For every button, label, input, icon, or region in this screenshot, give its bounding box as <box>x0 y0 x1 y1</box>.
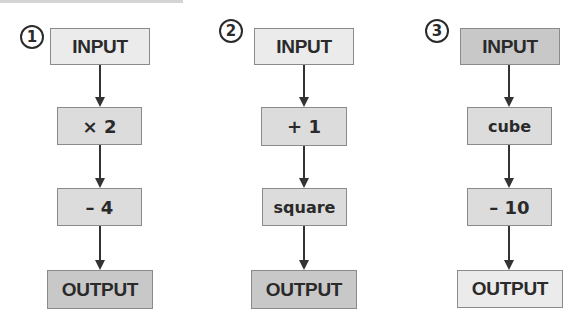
input-box: INPUT <box>50 28 150 65</box>
output-box: OUTPUT <box>457 270 563 308</box>
input-box: INPUT <box>460 28 560 65</box>
operation-box-cube: cube <box>467 107 552 145</box>
machine-number-badge: 1 <box>20 25 44 49</box>
operation-box-minus-10: – 10 <box>467 188 552 226</box>
output-box: OUTPUT <box>47 270 153 309</box>
operation-box-minus-4: – 4 <box>57 188 142 226</box>
operation-box-square: square <box>262 188 347 226</box>
machine-number-badge: 3 <box>425 19 449 43</box>
machine-number-badge: 2 <box>219 19 243 43</box>
input-box: INPUT <box>254 28 354 65</box>
operation-box-times-2: × 2 <box>57 107 142 145</box>
operation-box-plus-1: + 1 <box>261 107 347 146</box>
function-machine-1: 1 INPUT × 2 – 4 OUTPUT <box>0 0 190 326</box>
output-box: OUTPUT <box>251 270 357 309</box>
